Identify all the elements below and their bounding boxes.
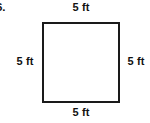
problem-number: 6. — [0, 0, 5, 14]
dimension-label-bottom: 5 ft — [42, 106, 120, 119]
dimension-label-right: 5 ft — [122, 55, 150, 68]
figure-canvas: 6. 5 ft 5 ft 5 ft 5 ft — [0, 0, 150, 123]
dimension-label-top: 5 ft — [42, 1, 120, 14]
square-shape — [42, 22, 120, 103]
dimension-label-left: 5 ft — [10, 55, 40, 68]
